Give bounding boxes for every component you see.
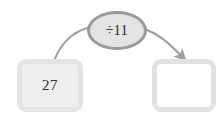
input-box[interactable]: 27 [17, 59, 83, 112]
connector-input-to-operator [55, 28, 88, 60]
operator-label: ÷11 [106, 24, 129, 38]
function-machine-diagram: 27 ÷11 [0, 0, 224, 120]
connector-operator-to-output [147, 30, 180, 54]
input-value: 27 [42, 78, 58, 93]
output-box[interactable] [152, 59, 216, 112]
operator-node[interactable]: ÷11 [87, 11, 147, 50]
